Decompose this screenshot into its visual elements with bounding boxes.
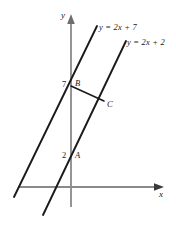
coordinate-diagram [0, 0, 176, 228]
label-point-b: B [75, 79, 80, 88]
figure-canvas: y = 2x + 7 y = 2x + 2 B C A 7 2 y x [0, 0, 176, 228]
label-line-lower: y = 2x + 2 [127, 38, 165, 47]
segment-bc [71, 86, 104, 101]
label-point-a: A [75, 151, 80, 160]
x-axis-label: x [159, 190, 163, 199]
label-line-upper: y = 2x + 7 [99, 23, 137, 32]
y-tick-label-7: 7 [62, 80, 66, 89]
label-point-c: C [107, 100, 113, 109]
y-axis-label: y [61, 11, 65, 20]
line-upper-2x-plus-7 [14, 26, 97, 197]
y-axis-arrowhead [67, 14, 75, 24]
y-tick-label-2: 2 [62, 151, 66, 160]
line-lower-2x-plus-2 [43, 41, 126, 215]
